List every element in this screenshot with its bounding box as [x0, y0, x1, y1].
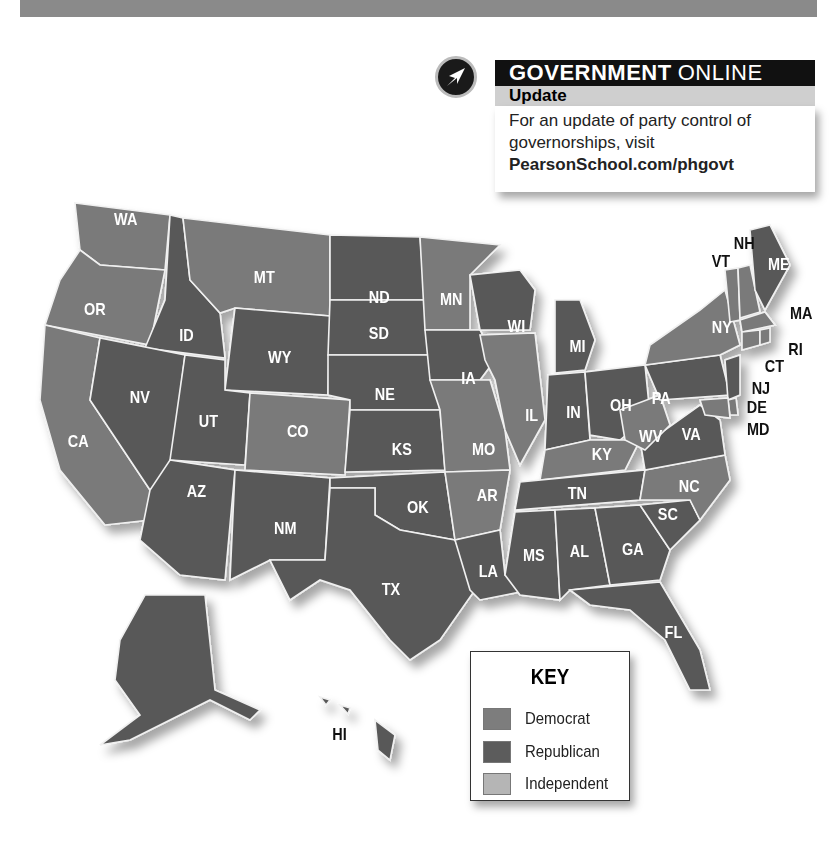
state-WI	[470, 270, 535, 330]
state-label-vt: VT	[712, 252, 730, 272]
state-label-ma: MA	[790, 304, 812, 324]
key-title: KEY	[483, 664, 617, 690]
state-label-ms: MS	[523, 546, 545, 566]
key-item-republican: Republican	[483, 741, 610, 763]
state-label-az: AZ	[187, 482, 206, 502]
state-label-in: IN	[566, 403, 580, 423]
state-label-nj: NJ	[752, 379, 770, 399]
state-label-ok: OK	[407, 498, 429, 518]
state-label-wv: WV	[639, 427, 662, 447]
state-label-ca: CA	[68, 432, 89, 452]
state-label-wa: WA	[114, 210, 137, 230]
callout-body: For an update of party control of govern…	[495, 106, 815, 192]
state-label-tx: TX	[382, 580, 400, 600]
state-NJ	[725, 355, 740, 400]
state-label-ri: RI	[788, 340, 802, 360]
key-label: Independent	[525, 774, 608, 794]
state-label-pa: PA	[652, 389, 671, 409]
state-label-de: DE	[747, 398, 767, 418]
state-MD	[700, 398, 730, 418]
callout-link[interactable]: PearsonSchool.com/phgovt	[509, 154, 801, 176]
republican-swatch	[483, 741, 511, 763]
independent-swatch	[483, 773, 511, 795]
key-item-independent: Independent	[483, 773, 620, 795]
state-HI	[320, 697, 395, 760]
state-label-ky: KY	[592, 445, 612, 465]
state-label-nd: ND	[369, 288, 390, 308]
state-label-ne: NE	[375, 385, 395, 405]
arrow-cursor-icon	[435, 56, 477, 98]
state-label-sc: SC	[658, 505, 678, 525]
state-AK	[100, 595, 260, 745]
state-label-ut: UT	[199, 412, 218, 432]
callout-title-bold: GOVERNMENT	[509, 60, 672, 85]
state-label-ga: GA	[622, 540, 644, 560]
state-label-il: IL	[525, 406, 538, 426]
state-label-ny: NY	[712, 318, 732, 338]
callout-title-light: ONLINE	[678, 60, 763, 85]
state-RI	[760, 328, 770, 345]
key-label: Democrat	[525, 709, 590, 729]
state-label-nc: NC	[679, 477, 700, 497]
key-item-democrat: Democrat	[483, 708, 599, 730]
state-CT	[742, 330, 760, 350]
state-label-tn: TN	[568, 484, 587, 504]
state-label-mo: MO	[472, 440, 495, 460]
state-label-md: MD	[747, 420, 769, 440]
state-label-fl: FL	[665, 623, 683, 643]
map-key: KEY Democrat Republican Independent	[470, 651, 630, 801]
state-label-nv: NV	[130, 388, 150, 408]
state-label-ct: CT	[765, 357, 784, 377]
us-governors-map	[0, 190, 837, 790]
state-label-la: LA	[479, 562, 498, 582]
state-label-mn: MN	[440, 290, 462, 310]
state-label-mi: MI	[569, 337, 585, 357]
state-label-ar: AR	[477, 486, 498, 506]
callout-body-text: For an update of party control of govern…	[509, 111, 751, 152]
state-label-id: ID	[179, 326, 193, 346]
state-label-nm: NM	[274, 519, 296, 539]
state-label-ia: IA	[461, 369, 475, 389]
header-bar	[20, 0, 817, 17]
state-label-co: CO	[287, 422, 309, 442]
state-label-wy: WY	[268, 348, 291, 368]
state-label-wi: WI	[508, 317, 526, 337]
state-label-al: AL	[570, 542, 589, 562]
state-label-me: ME	[768, 255, 790, 275]
key-label: Republican	[525, 742, 600, 762]
state-label-mt: MT	[254, 268, 275, 288]
state-label-va: VA	[682, 425, 701, 445]
state-label-or: OR	[84, 300, 106, 320]
democrat-swatch	[483, 708, 511, 730]
callout-subtitle: Update	[495, 86, 815, 106]
state-label-nh: NH	[734, 234, 755, 254]
state-label-hi: HI	[332, 725, 346, 745]
state-label-sd: SD	[369, 324, 389, 344]
state-label-ks: KS	[392, 440, 412, 460]
state-label-oh: OH	[610, 396, 632, 416]
callout-title: GOVERNMENTONLINE	[495, 60, 815, 86]
